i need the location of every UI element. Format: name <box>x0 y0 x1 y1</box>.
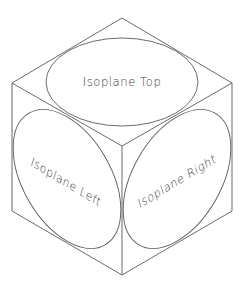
cube-edges <box>12 18 232 275</box>
edge-right-center <box>122 83 232 146</box>
isometric-cube-diagram: Isoplane Top Isoplane Left Isoplane Righ… <box>0 0 243 283</box>
label-isoplane-right: Isoplane Right <box>136 151 217 211</box>
edge-left-center <box>12 83 122 146</box>
label-isoplane-left: Isoplane Left <box>29 154 103 209</box>
cube-drawing: Isoplane Top Isoplane Left Isoplane Righ… <box>0 0 243 283</box>
label-isoplane-top: Isoplane Top <box>83 75 162 89</box>
face-top: Isoplane Top <box>46 38 198 126</box>
